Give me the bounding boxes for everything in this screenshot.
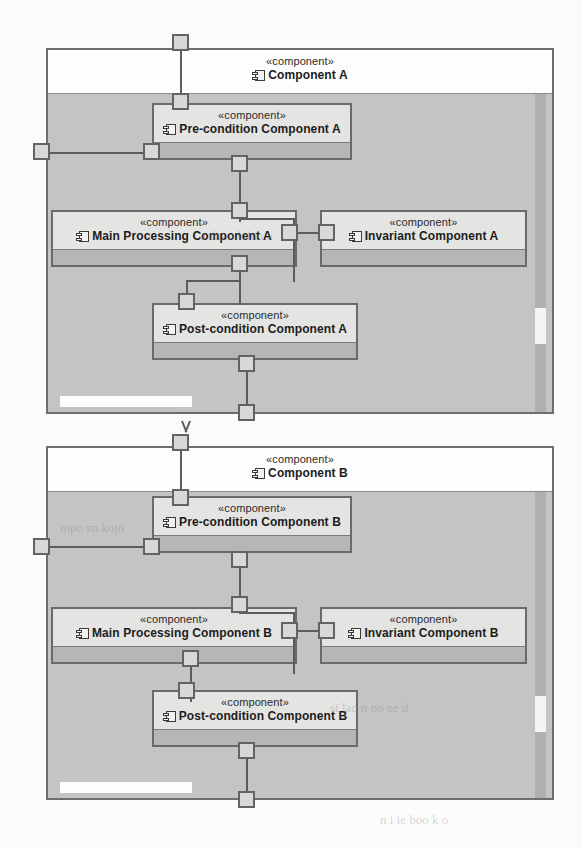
component-a-right-strip-gap [535,308,546,344]
component-b-right-strip [535,492,546,798]
component-icon [163,711,176,722]
invariant-b-name-row: Invariant Component B [322,626,525,641]
outer-component-a[interactable]: «component» Component A «component» [46,48,554,414]
port-pre-condition-a-left[interactable] [143,143,160,160]
port-main-processing-a-bottom[interactable] [231,255,248,272]
component-b-bottom-bar [60,782,192,793]
connector-a-post-top-elbow [186,280,240,282]
port-main-processing-b-right[interactable] [281,622,298,639]
component-icon [76,231,89,242]
invariant-a-name: Invariant Component A [365,229,499,244]
invariant-a-body [322,250,525,265]
pre-condition-a-name: Pre-condition Component A [179,122,340,137]
component-b-header: «component» Component B [48,448,552,492]
port-invariant-b-left[interactable] [318,622,335,639]
component-icon [163,324,176,335]
connector-a-left [46,152,156,154]
port-component-a-left[interactable] [33,143,50,160]
invariant-a-stereotype: «component» [322,215,525,229]
pre-condition-b-name-row: Pre-condition Component B [154,515,350,530]
port-pre-condition-b-top[interactable] [172,489,189,506]
component-icon [163,124,176,135]
port-pre-condition-b-bottom[interactable] [231,551,248,568]
pre-condition-b-body [154,536,350,551]
dependency-a-to-b-dashed [178,412,240,414]
pre-condition-b-name: Pre-condition Component B [179,515,341,530]
invariant-b-stereotype: «component» [322,612,525,626]
component-a-name: Component A [268,68,347,83]
port-main-processing-b-bottom[interactable] [182,650,199,667]
invariant-b-name: Invariant Component B [364,626,498,641]
invariant-b-body [322,647,525,662]
port-main-processing-b-top[interactable] [231,596,248,613]
component-b-name-row: Component B [48,466,552,481]
invariant-a-name-row: Invariant Component A [322,229,525,244]
port-component-a-top[interactable] [172,34,189,51]
component-diagram-page: a daun lebih a mpo sn kojn si lad n no e… [0,0,582,848]
component-b-name: Component B [268,466,348,481]
port-post-condition-a-top[interactable] [178,293,195,310]
component-icon [349,231,362,242]
post-condition-b-name-row: Post-condition Component B [154,709,356,724]
invariant-component-a[interactable]: «component» Invariant Component A [320,210,527,267]
component-a-right-strip [535,94,546,412]
post-condition-a-header: «component» Post-condition Component A [154,305,356,343]
main-processing-a-name-row: Main Processing Component A [53,229,295,244]
main-processing-b-stereotype: «component» [53,612,295,626]
port-pre-condition-b-left[interactable] [143,538,160,555]
port-component-a-bottom[interactable] [238,404,255,421]
post-condition-a-name-row: Post-condition Component A [154,322,356,337]
port-main-processing-a-right[interactable] [281,224,298,241]
invariant-b-header: «component» Invariant Component B [322,609,525,647]
component-icon [348,628,361,639]
bleed-text-4: n i ie boo k o [380,812,448,828]
component-icon [76,628,89,639]
main-processing-component-b[interactable]: «component» Main Processing Component B [51,607,297,664]
main-processing-b-name-row: Main Processing Component B [53,626,295,641]
component-a-bottom-bar [60,396,192,407]
port-invariant-a-left[interactable] [318,224,335,241]
pre-condition-component-a[interactable]: «component» Pre-condition Component A [152,103,352,160]
port-pre-condition-a-bottom[interactable] [231,155,248,172]
invariant-component-b[interactable]: «component» Invariant Component B [320,607,527,664]
post-condition-a-body [154,343,356,358]
post-condition-b-body [154,730,356,745]
post-condition-component-a[interactable]: «component» Post-condition Component A [152,303,358,360]
port-pre-condition-a-top[interactable] [172,93,189,110]
component-b-stereotype: «component» [48,452,552,466]
port-component-b-left[interactable] [33,538,50,555]
port-main-processing-a-top[interactable] [231,202,248,219]
component-icon [252,468,265,479]
component-icon [252,70,265,81]
pre-condition-a-header: «component» Pre-condition Component A [154,105,350,143]
dependency-arrowhead [180,421,192,432]
main-processing-b-header: «component» Main Processing Component B [53,609,295,647]
outer-component-b[interactable]: «component» Component B «component» [46,446,554,800]
main-processing-b-body [53,647,295,662]
main-processing-b-name: Main Processing Component B [92,626,272,641]
port-post-condition-b-top[interactable] [178,682,195,699]
pre-condition-a-stereotype: «component» [154,108,350,122]
component-a-stereotype: «component» [48,54,552,68]
component-a-name-row: Component A [48,68,552,83]
port-post-condition-b-bottom[interactable] [238,742,255,759]
connector-b-left [46,546,156,548]
component-b-right-strip-gap [535,696,546,732]
port-component-b-bottom[interactable] [238,791,255,808]
post-condition-a-name: Post-condition Component A [179,322,347,337]
post-condition-a-stereotype: «component» [154,308,356,322]
invariant-a-header: «component» Invariant Component A [322,212,525,250]
main-processing-a-body [53,250,295,265]
port-component-b-top[interactable] [172,434,189,451]
port-post-condition-a-bottom[interactable] [238,355,255,372]
component-icon [163,517,176,528]
component-a-header: «component» Component A [48,50,552,94]
pre-condition-a-name-row: Pre-condition Component A [154,122,350,137]
pre-condition-a-body [154,143,350,158]
main-processing-a-name: Main Processing Component A [92,229,272,244]
post-condition-b-name: Post-condition Component B [179,709,348,724]
